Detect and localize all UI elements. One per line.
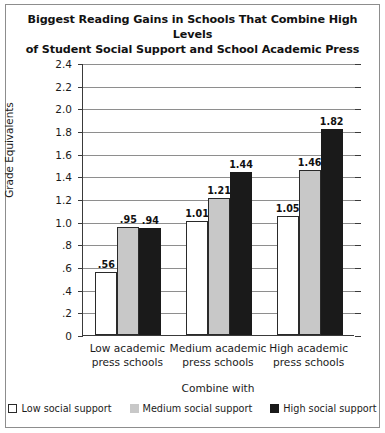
plot-area: 0.2.4.6.81.01.21.41.61.82.02.22.4 .56.95… xyxy=(82,64,354,336)
y-axis-tick-label: 1.4 xyxy=(2,171,72,183)
y-axis-tick-right xyxy=(355,132,361,133)
legend-label: High social support xyxy=(283,403,376,414)
bar-value-label: 1.46 xyxy=(298,157,322,168)
y-axis-tick-right xyxy=(355,155,361,156)
legend-item[interactable]: Low social support xyxy=(8,403,111,414)
y-axis-tick-label: 1.0 xyxy=(2,217,72,229)
x-axis-category-label-line: Low academic xyxy=(90,342,165,356)
x-axis-category-label: Medium academicpress schools xyxy=(170,342,267,369)
legend-swatch-icon xyxy=(130,404,139,413)
chart-title-line-1: Biggest Reading Gains in Schools That Co… xyxy=(10,12,375,42)
y-axis-tick-right xyxy=(355,177,361,178)
bar xyxy=(208,198,230,335)
bar xyxy=(299,170,321,335)
y-axis-tick-right xyxy=(355,200,361,201)
y-axis-tick-label: 1.6 xyxy=(2,149,72,161)
bar-value-label: .56 xyxy=(98,259,115,270)
legend-label: Low social support xyxy=(21,403,111,414)
y-axis-tick-right xyxy=(355,291,361,292)
bar-value-label: 1.21 xyxy=(207,185,231,196)
legend-item[interactable]: High social support xyxy=(270,403,376,414)
legend-item[interactable]: Medium social support xyxy=(130,403,253,414)
legend-swatch-icon xyxy=(8,404,17,413)
x-axis-category-label-line: Medium academic xyxy=(170,342,267,356)
y-axis-tick-right xyxy=(355,109,361,110)
y-axis-tick-right xyxy=(355,268,361,269)
y-axis-tick-label: .2 xyxy=(2,307,72,319)
x-axis-category-label: Low academicpress schools xyxy=(90,342,165,369)
bar xyxy=(321,129,343,335)
chart-legend: Low social supportMedium social supportH… xyxy=(12,403,373,414)
y-axis-tick-label: 0 xyxy=(2,330,72,342)
y-axis-tick-label: 2.0 xyxy=(2,103,72,115)
y-axis-tick-label: 2.4 xyxy=(2,58,72,70)
bar-value-label: .94 xyxy=(142,215,159,226)
y-axis-tick-right xyxy=(355,223,361,224)
x-axis-category-label-line: press schools xyxy=(170,356,267,370)
bar-value-label: 1.44 xyxy=(229,159,253,170)
legend-swatch-icon xyxy=(270,404,279,413)
chart-title: Biggest Reading Gains in Schools That Co… xyxy=(10,12,375,57)
bar xyxy=(95,272,117,335)
bar-value-label: .95 xyxy=(120,214,137,225)
bar-series-group: .56.95.941.011.211.441.051.461.82 xyxy=(83,63,355,335)
bar xyxy=(230,172,252,335)
y-axis-tick-label: .4 xyxy=(2,285,72,297)
x-axis-category-label-line: press schools xyxy=(90,356,165,370)
bar xyxy=(117,227,139,335)
y-axis-tick-right xyxy=(355,313,361,314)
chart-figure: Biggest Reading Gains in Schools That Co… xyxy=(0,0,385,433)
bar xyxy=(139,228,161,335)
bar xyxy=(277,216,299,335)
x-axis-category-label: High academicpress schools xyxy=(269,342,348,369)
y-axis-tick-label: 2.2 xyxy=(2,81,72,93)
x-axis-category-label-line: High academic xyxy=(269,342,348,356)
y-axis-tick-label: .8 xyxy=(2,239,72,251)
y-axis-tick-label: 1.8 xyxy=(2,126,72,138)
x-axis-category-label-line: press schools xyxy=(269,356,348,370)
y-axis-tick-label: 1.2 xyxy=(2,194,72,206)
chart-title-line-2: of Student Social Support and School Aca… xyxy=(10,42,375,57)
bar-value-label: 1.82 xyxy=(320,116,344,127)
y-axis-tick-right xyxy=(355,64,361,65)
legend-label: Medium social support xyxy=(143,403,253,414)
bar-value-label: 1.01 xyxy=(185,208,209,219)
y-axis-tick xyxy=(78,336,83,337)
bar-value-label: 1.05 xyxy=(276,203,300,214)
y-axis-tick-label: .6 xyxy=(2,262,72,274)
y-axis-tick-right xyxy=(355,245,361,246)
y-axis-tick-right xyxy=(355,336,361,337)
bar xyxy=(186,221,208,335)
y-axis-tick-right xyxy=(355,87,361,88)
x-axis-title: Combine with xyxy=(82,382,354,394)
